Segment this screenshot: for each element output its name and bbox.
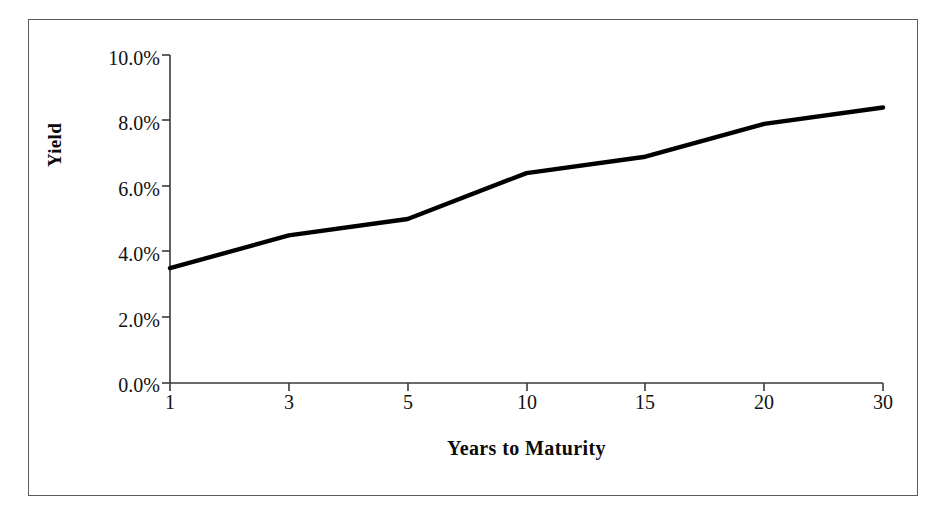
x-tick-label-20: 20 [734, 392, 794, 412]
y-axis-ticks [162, 55, 170, 383]
x-tick-label-1: 1 [140, 392, 200, 412]
x-tick-label-10: 10 [497, 392, 557, 412]
x-tick-label-3: 3 [259, 392, 319, 412]
x-axis-ticks [170, 383, 883, 391]
x-tick-label-15: 15 [615, 392, 675, 412]
x-tick-label-5: 5 [378, 392, 438, 412]
yield-curve-figure: Yield 10.0% 8.0% 6.0% 4.0% 2.0% 0.0% [0, 0, 932, 518]
x-tick-label-30: 30 [853, 392, 913, 412]
x-axis-tick-labels: 1 3 5 10 15 20 30 [0, 392, 932, 422]
x-axis-title: Years to Maturity [170, 437, 883, 460]
yield-curve-line [170, 108, 883, 269]
